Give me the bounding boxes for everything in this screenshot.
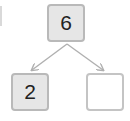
whole-box: 6 [47,4,85,42]
arrow-right [67,44,103,70]
part-left-value: 2 [24,80,36,104]
part-box-left: 2 [11,73,49,111]
part-box-right-empty[interactable] [86,73,124,111]
whole-value: 6 [60,11,72,35]
arrow-left [32,44,67,70]
